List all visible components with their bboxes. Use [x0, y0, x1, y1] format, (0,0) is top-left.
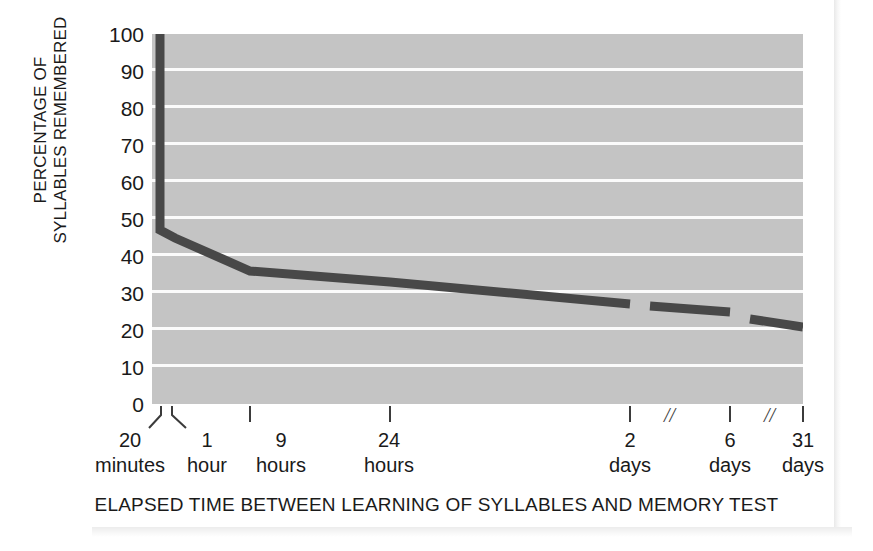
- x-tick-2-days: [629, 406, 631, 422]
- x-label-31-days-unit: days: [743, 452, 863, 478]
- y-tick-20: 20: [86, 320, 144, 341]
- y-tick-80: 80: [86, 98, 144, 119]
- x-label-9-hours-unit: hours: [221, 452, 341, 478]
- y-tick-40: 40: [86, 246, 144, 267]
- y-tick-10: 10: [86, 357, 144, 378]
- y-axis-title: PERCENTAGE OF SYLLABLES REMEMBERED: [31, 15, 71, 245]
- y-tick-100: 100: [86, 24, 144, 45]
- x-label-20-minutes-number: 20: [119, 429, 141, 451]
- y-tick-50: 50: [86, 209, 144, 230]
- y-axis-title-line-1: PERCENTAGE OF: [31, 15, 51, 245]
- x-axis-caption: ELAPSED TIME BETWEEN LEARNING OF SYLLABL…: [0, 494, 873, 516]
- bent-tick-1-hour: [166, 404, 192, 430]
- x-tick-24-hours: [389, 406, 391, 422]
- x-label-1-hour-number: 1: [201, 429, 212, 451]
- y-tick-90: 90: [86, 61, 144, 82]
- x-label-9-hours-number: 9: [275, 429, 286, 451]
- axis-break-icon-2: //: [764, 406, 784, 424]
- forgetting-curve-line: [152, 34, 803, 404]
- y-tick-30: 30: [86, 283, 144, 304]
- y-tick-60: 60: [86, 172, 144, 193]
- plot-area: [152, 34, 803, 404]
- x-label-24-hours: 24 hours: [329, 428, 449, 478]
- axis-break-icon-1: //: [664, 406, 684, 424]
- y-tick-70: 70: [86, 135, 144, 156]
- y-axis-title-line-2: SYLLABLES REMEMBERED: [51, 15, 71, 245]
- x-tick-31-days: [802, 406, 804, 422]
- x-label-31-days: 31 days: [743, 428, 863, 478]
- x-tick-9-hours: [249, 406, 251, 422]
- scan-edge-bottom: [92, 527, 852, 537]
- x-label-24-hours-number: 24: [378, 429, 400, 451]
- x-label-6-days-number: 6: [724, 429, 735, 451]
- x-label-24-hours-unit: hours: [329, 452, 449, 478]
- x-label-9-hours: 9 hours: [221, 428, 341, 478]
- x-tick-6-days: [729, 406, 731, 422]
- x-label-31-days-number: 31: [792, 429, 814, 451]
- forgetting-curve-figure: 100 90 80 70 60 50 40 30 20 10 0 PERCENT…: [0, 0, 873, 551]
- x-label-2-days-number: 2: [624, 429, 635, 451]
